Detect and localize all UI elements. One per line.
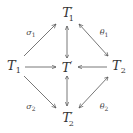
node-t1: T1 (7, 59, 21, 76)
node-t1-prime: T′1 (62, 6, 74, 23)
node-t-prime: T′ (62, 60, 73, 73)
label-theta1: θ1 (100, 28, 109, 39)
label-sigma2: σ2 (26, 102, 35, 113)
commutative-diagram: T′1 T1 T′ T2 T′2 σ1 σ2 θ1 θ2 (0, 0, 133, 133)
label-theta2: θ2 (100, 102, 109, 113)
node-t2-prime: T′2 (62, 111, 74, 128)
node-t2: T2 (112, 59, 126, 76)
label-sigma1: σ1 (26, 28, 35, 39)
